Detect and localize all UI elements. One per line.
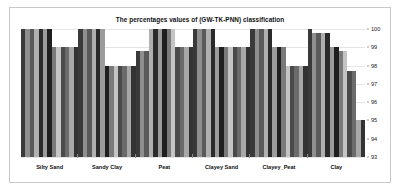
y-tick-label: 98 [371, 63, 377, 69]
chart-figure: The percentages values of (GW-TK-PNN) cl… [9, 7, 391, 183]
y-tick-label: 93 [371, 154, 377, 160]
y-tick-label: 100 [371, 26, 380, 32]
bar-group [308, 29, 365, 157]
bar-group [193, 29, 250, 157]
bar-group [136, 29, 193, 157]
bar-group [250, 29, 307, 157]
y-tick-label: 95 [371, 117, 377, 123]
x-tick-label: Silty Sand [21, 160, 78, 174]
y-tick-label: 97 [371, 81, 377, 87]
x-tick-label: Clayey Sand [193, 160, 250, 174]
plot-area [21, 29, 365, 157]
y-tick-mark [367, 29, 369, 30]
y-tick-label: 99 [371, 44, 377, 50]
y-tick-mark [367, 157, 369, 158]
y-tick-label: 96 [371, 99, 377, 105]
x-tick-label: Clayey_Peat [250, 160, 307, 174]
bar-group [78, 29, 135, 157]
y-tick-mark [367, 138, 369, 139]
y-tick-mark [367, 120, 369, 121]
y-axis: 10099989796959493 [367, 29, 389, 157]
x-tick-label: Clay [308, 160, 365, 174]
y-tick-mark [367, 102, 369, 103]
gridline [21, 157, 365, 158]
x-tick-label: Sandy Clay [78, 160, 135, 174]
x-axis: Silty SandSandy ClayPeatClayey SandClaye… [21, 160, 365, 174]
y-tick-mark [367, 65, 369, 66]
x-tick-label: Peat [136, 160, 193, 174]
y-tick-mark [367, 83, 369, 84]
bar-groups [21, 29, 365, 157]
bar [361, 120, 365, 157]
bar-group [21, 29, 78, 157]
chart-title: The percentages values of (GW-TK-PNN) cl… [10, 16, 390, 23]
y-tick-label: 94 [371, 136, 377, 142]
y-tick-mark [367, 47, 369, 48]
